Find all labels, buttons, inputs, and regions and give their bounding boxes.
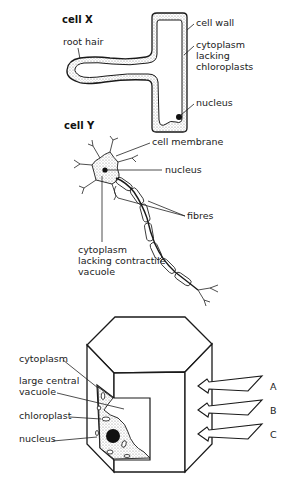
- label-cytoplasm-x-3: chloroplasts: [196, 61, 253, 72]
- label-arrow-b: B: [270, 405, 277, 416]
- label-chloroplast: chloroplast: [19, 410, 72, 421]
- leader-root-hair: [78, 48, 80, 59]
- axon-terminals: [198, 285, 218, 306]
- label-cytoplasm-y-2: lacking contractile: [78, 255, 166, 266]
- leader-fibres: [114, 186, 185, 216]
- label-fibres: fibres: [187, 210, 214, 221]
- label-cytoplasm-y-3: vacuole: [78, 266, 115, 277]
- leader-cell-wall: [187, 24, 194, 30]
- label-cell-membrane: cell membrane: [152, 136, 223, 147]
- label-vacuole-2: vacuole: [19, 386, 56, 397]
- cell-z: cytoplasm large central vacuole chloropl…: [19, 317, 277, 472]
- label-nucleus-y: nucleus: [165, 164, 202, 175]
- label-cytoplasm-x-2: lacking: [196, 50, 230, 61]
- cell-y: cell Y cell membrane n: [64, 120, 223, 306]
- myelin-sheath: [115, 176, 193, 287]
- cell-x-title: cell X: [62, 14, 93, 25]
- label-cytoplasm-x-1: cytoplasm: [196, 39, 245, 50]
- cell-x: cell X root hair cell wall cytoplasm lac…: [62, 13, 253, 132]
- light-arrows: [198, 376, 262, 441]
- label-cell-wall: cell wall: [196, 17, 234, 28]
- leader-cell-membrane: [116, 143, 150, 156]
- palisade-nucleus: [106, 429, 120, 443]
- label-nucleus-x: nucleus: [196, 97, 233, 108]
- label-cytoplasm-y-1: cytoplasm: [78, 244, 127, 255]
- label-nucleus-z: nucleus: [19, 433, 56, 444]
- axon: [116, 178, 198, 290]
- label-vacuole-1: large central: [19, 375, 79, 386]
- cell-y-title: cell Y: [64, 120, 95, 131]
- label-root-hair: root hair: [63, 36, 104, 47]
- label-arrow-c: C: [270, 429, 277, 440]
- label-arrow-a: A: [270, 381, 277, 392]
- label-cytoplasm-z: cytoplasm: [19, 353, 68, 364]
- diagram-canvas: cell X root hair cell wall cytoplasm lac…: [0, 0, 289, 487]
